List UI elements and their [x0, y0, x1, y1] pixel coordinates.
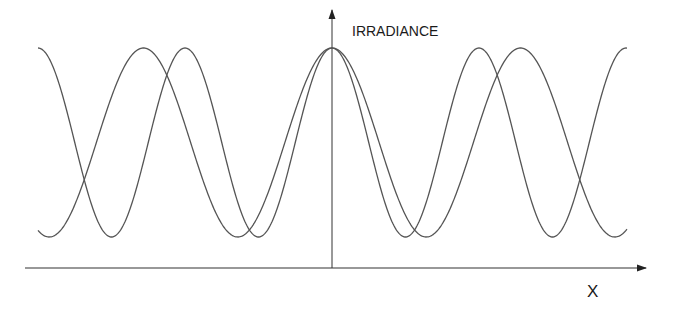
x-axis-label: X: [587, 282, 598, 302]
y-axis-label: IRRADIANCE: [352, 23, 438, 39]
irradiance-diagram: [0, 0, 679, 315]
